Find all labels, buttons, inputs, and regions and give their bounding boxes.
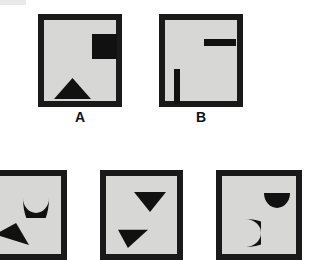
- right-arrow-triangle: [118, 222, 148, 248]
- panel-e: [216, 170, 302, 260]
- panel-c-content: [0, 176, 61, 254]
- down-triangle: [134, 192, 166, 212]
- panel-c: [0, 170, 67, 260]
- filled-square: [92, 34, 117, 59]
- half-disc-down: [264, 193, 290, 208]
- vertical-bar: [174, 69, 180, 104]
- figure-canvas: AB: [0, 0, 318, 260]
- left-arrow-triangle: [0, 223, 29, 245]
- corner-artifact: [0, 0, 26, 5]
- horizontal-bar: [204, 39, 236, 46]
- panel-a: [38, 14, 122, 107]
- panel-b: [159, 14, 243, 107]
- panel-b-label: B: [159, 110, 243, 124]
- panel-a-label: A: [38, 110, 122, 124]
- crescent-left: [242, 219, 261, 247]
- panel-e-content: [222, 176, 296, 254]
- panel-a-content: [44, 20, 116, 101]
- panel-b-content: [165, 20, 237, 101]
- up-triangle: [54, 78, 91, 99]
- panel-d: [100, 170, 183, 260]
- crescent-up: [23, 198, 49, 218]
- panel-d-content: [106, 176, 177, 254]
